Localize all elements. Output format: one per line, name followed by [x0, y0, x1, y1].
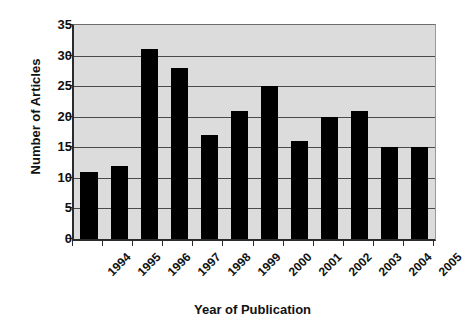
bar-slot [104, 25, 134, 239]
x-axis-tick [313, 240, 314, 246]
x-axis-tick-label-2000: 2000 [285, 250, 314, 279]
x-axis-tick [253, 240, 254, 246]
x-axis-tick [403, 240, 404, 246]
y-axis-tick-label: 35 [16, 17, 72, 32]
x-axis-title: Year of Publication [72, 302, 433, 317]
x-axis-tick-label-1996: 1996 [165, 250, 194, 279]
x-axis-tick-label-1995: 1995 [135, 250, 164, 279]
y-axis-tick-label: 5 [16, 200, 72, 215]
y-axis-tick-label: 20 [16, 108, 72, 123]
y-axis-tick-group: 05101520253035 [0, 0, 72, 328]
x-axis-tick-label-1998: 1998 [225, 250, 254, 279]
bar-slot [74, 25, 104, 239]
x-axis-tick [192, 240, 193, 246]
bar-slot [194, 25, 224, 239]
bar-slot [224, 25, 254, 239]
x-axis-tick-label-2004: 2004 [406, 250, 435, 279]
bar-slot [134, 25, 164, 239]
bar-2003 [351, 111, 368, 239]
bar-slot [375, 25, 405, 239]
bar-slot [254, 25, 284, 239]
bar-1995 [111, 166, 128, 239]
bar-1994 [80, 172, 97, 239]
y-axis-tick-label: 25 [16, 78, 72, 93]
bar-2005 [411, 147, 428, 239]
plot-area [72, 24, 436, 241]
bar-slot [315, 25, 345, 239]
bar-slot [164, 25, 194, 239]
y-axis-tick-label: 30 [16, 47, 72, 62]
x-axis-tick [162, 240, 163, 246]
x-axis-tick [283, 240, 284, 246]
y-axis-tick-label: 10 [16, 169, 72, 184]
x-axis-tick-label-2001: 2001 [315, 250, 344, 279]
x-axis-tick-label-2005: 2005 [436, 250, 465, 279]
x-axis-tick-label-1997: 1997 [195, 250, 224, 279]
x-axis-tick [222, 240, 223, 246]
x-axis-tick-label-2002: 2002 [346, 250, 375, 279]
x-axis-tick-label-1994: 1994 [105, 250, 134, 279]
bar-series [74, 25, 435, 239]
x-axis-tick-label-2003: 2003 [376, 250, 405, 279]
bar-2000 [261, 86, 278, 239]
bar-slot [405, 25, 435, 239]
bar-slot [285, 25, 315, 239]
bar-1997 [171, 68, 188, 239]
x-axis-tick [433, 240, 434, 246]
x-axis-tick [132, 240, 133, 246]
bar-1999 [231, 111, 248, 239]
y-axis-tick-label: 0 [16, 231, 72, 246]
bar-slot [345, 25, 375, 239]
bar-2001 [291, 141, 308, 239]
x-axis-tick [72, 240, 73, 246]
x-axis-tick-label-1999: 1999 [255, 250, 284, 279]
bar-1998 [201, 135, 218, 239]
x-axis-tick [343, 240, 344, 246]
x-axis-tick [373, 240, 374, 246]
bar-2004 [381, 147, 398, 239]
y-axis-tick-label: 15 [16, 139, 72, 154]
bar-2002 [321, 117, 338, 239]
x-axis-tick [102, 240, 103, 246]
bar-1996 [141, 49, 158, 239]
